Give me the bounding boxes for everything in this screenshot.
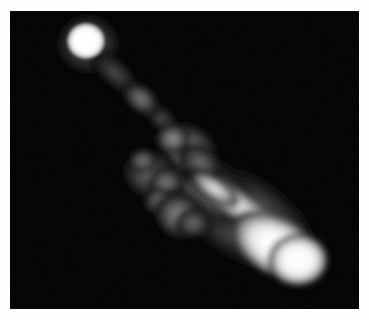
figure-root [0,0,369,320]
page-margin-bottom [0,309,369,320]
detector-noise-overlay [10,11,359,309]
page-margin-top [0,0,369,11]
page-margin-right [359,0,369,320]
sky-image-frame [10,11,359,309]
page-margin-left [0,0,10,320]
sky-canvas [10,11,359,309]
